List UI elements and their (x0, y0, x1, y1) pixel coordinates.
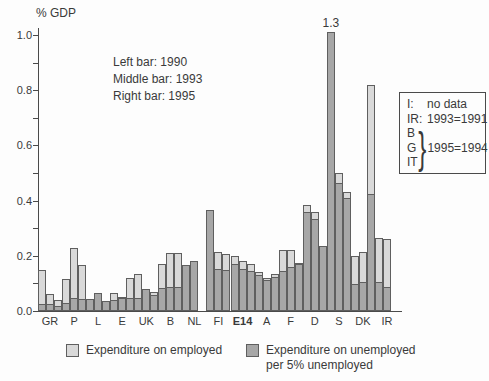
bar-key-line-1995: Right bar: 1995 (113, 88, 202, 105)
legend-label-employed: Expenditure on employed (86, 343, 222, 358)
bar-F-1990 (279, 250, 287, 311)
bar-S-1995 (343, 192, 351, 311)
note-row-group: B G IT } 1995=1994 (407, 126, 480, 170)
bar-S-1990 (327, 32, 335, 311)
data-notes-box: I: no data IR: 1993=1991 B G IT } 1995=1… (399, 92, 486, 174)
bar-NL-1993 (190, 261, 198, 311)
bar-dark-segment-FI-1990 (207, 211, 213, 310)
bar-dark-segment-D-1995 (320, 247, 326, 310)
bar-dark-segment-IR-1993 (384, 287, 390, 310)
bar-dark-segment-NL-1993 (191, 262, 197, 310)
bar-dark-segment-A-1990 (256, 275, 262, 310)
bar-dark-segment-E-1990 (111, 300, 117, 310)
bar-IR-1990 (375, 238, 383, 311)
y-tick-0.6 (33, 145, 38, 146)
bar-key-note: Left bar: 1990 Middle bar: 1993 Right ba… (113, 54, 202, 105)
chart-figure: % GDP 0.00.20.40.60.81.0GRPLEUKBNLFIE14A… (0, 0, 489, 381)
bar-P-1995 (78, 265, 86, 311)
bar-B-1993 (166, 253, 174, 311)
bar-D-1990 (303, 205, 311, 311)
bar-E-1990 (110, 293, 118, 311)
legend-item-employed: Expenditure on employed (66, 343, 222, 373)
curly-brace-icon: } (418, 141, 426, 156)
y-tick-1 (33, 35, 38, 36)
bar-GR-1993 (46, 294, 54, 311)
bar-dark-segment-S-1995 (344, 198, 350, 310)
x-axis-line (38, 311, 402, 312)
data-label-S-1990: 1.3 (316, 16, 346, 30)
bar-dark-segment-D-1993 (312, 219, 318, 310)
note-value-ireland: 1993=1991 (427, 112, 487, 127)
bar-dark-segment-S-1993 (336, 183, 342, 310)
y-tick-label-1: 1.0 (8, 30, 32, 41)
y-tick-0.4 (33, 201, 38, 202)
bar-dark-segment-GR-1995 (55, 306, 61, 310)
bar-dark-segment-DK-1995 (368, 194, 374, 310)
bar-UK-1993 (142, 289, 150, 311)
bar-dark-segment-A-1993 (264, 280, 270, 310)
employed-swatch-icon (66, 344, 79, 357)
y-tick-0.7 (33, 118, 38, 119)
y-tick-label-0: 0.0 (8, 306, 32, 317)
bar-dark-segment-B-1993 (167, 287, 173, 310)
note-country-g: G (407, 141, 418, 156)
x-label-IR: IR (372, 315, 402, 327)
bar-A-1993 (263, 278, 271, 311)
bar-DK-1990 (351, 256, 359, 311)
bar-FI-1990 (206, 210, 214, 311)
bar-P-1990 (62, 279, 70, 311)
bar-dark-segment-S-1990 (328, 33, 334, 310)
bar-dark-segment-A-1995 (272, 277, 278, 310)
bar-dark-segment-F-1990 (280, 271, 286, 310)
bar-A-1990 (255, 272, 263, 311)
bar-P-1993 (70, 248, 78, 311)
bar-dark-segment-GR-1993 (47, 304, 53, 310)
bar-L-1993 (94, 293, 102, 311)
bar-UK-1990 (134, 274, 142, 311)
y-axis-line (38, 28, 39, 311)
plot-area: 0.00.20.40.60.81.0GRPLEUKBNLFIE14AFDS1.3… (0, 0, 489, 381)
y-tick-label-0.4: 0.4 (8, 196, 32, 207)
y-tick-0.9 (33, 63, 38, 64)
bar-dark-segment-E14-1995 (248, 271, 254, 310)
bar-D-1993 (311, 212, 319, 311)
bar-key-line-1993: Middle bar: 1993 (113, 71, 202, 88)
y-tick-label-0.2: 0.2 (8, 251, 32, 262)
bar-dark-segment-DK-1990 (352, 284, 358, 310)
bar-dark-segment-L-1990 (87, 300, 93, 310)
bar-FI-1993 (214, 252, 222, 311)
bar-E14-1995 (247, 264, 255, 311)
note-country-it: IT (407, 155, 418, 170)
bar-dark-segment-DK-1993 (360, 282, 366, 310)
bar-dark-segment-FI-1993 (215, 269, 221, 310)
legend-label-unemployed-line2: per 5% unemployed (266, 358, 415, 373)
note-value-italy: no data (427, 97, 467, 112)
legend-label-unemployed: Expenditure on unemployed per 5% unemplo… (266, 343, 415, 373)
bar-dark-segment-D-1990 (304, 212, 310, 310)
note-key-italy: I: (407, 97, 427, 112)
bar-dark-segment-GR-1990 (39, 304, 45, 310)
bar-E14-1993 (239, 261, 247, 311)
unemployed-swatch-icon (246, 344, 259, 357)
bar-L-1990 (86, 299, 94, 311)
legend-label-unemployed-line1: Expenditure on unemployed (266, 343, 415, 358)
bar-dark-segment-NL-1990 (183, 266, 189, 310)
bar-F-1995 (295, 263, 303, 311)
bar-dark-segment-UK-1990 (135, 298, 141, 310)
bar-FI-1995 (222, 254, 230, 311)
bar-DK-1993 (359, 252, 367, 311)
bar-dark-segment-B-1995 (175, 287, 181, 310)
bar-L-1995 (102, 301, 110, 311)
bar-dark-segment-B-1990 (159, 288, 165, 310)
bar-dark-segment-P-1990 (63, 303, 69, 310)
bar-GR-1995 (54, 300, 62, 311)
bar-key-line-1990: Left bar: 1990 (113, 54, 202, 71)
y-tick-label-0.8: 0.8 (8, 85, 32, 96)
note-group-value: 1995=1994 (427, 141, 487, 156)
bar-dark-segment-UK-1993 (143, 290, 149, 310)
bar-UK-1995 (150, 292, 158, 311)
legend: Expenditure on employed Expenditure on u… (66, 343, 416, 373)
bar-dark-segment-P-1993 (71, 298, 77, 310)
bar-DK-1995 (367, 85, 375, 311)
bar-S-1993 (335, 173, 343, 311)
